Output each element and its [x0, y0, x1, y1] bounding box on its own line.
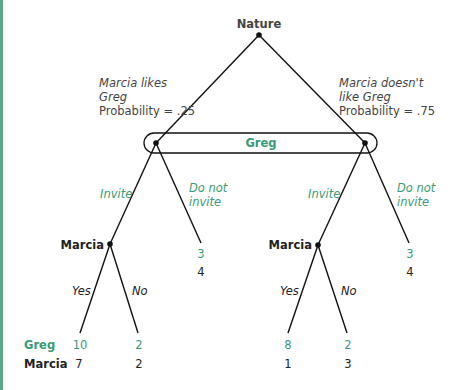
right-not-invite-label: Do not invite [397, 181, 435, 209]
payoff-marcia-dislikes-not-invite: 4 [406, 265, 413, 279]
payoff-greg-dislikes-yes: 8 [284, 338, 291, 352]
right-no-label: No [341, 284, 357, 298]
payoff-marcia-likes-not-invite: 4 [197, 265, 204, 279]
marcia-node-right-label: Marcia [269, 238, 312, 252]
greg-node-right [362, 140, 368, 146]
payoff-marcia-dislikes-yes: 1 [284, 357, 291, 371]
dislikes-line1: Marcia doesn't [339, 76, 435, 90]
right-yes-label: Yes [280, 284, 299, 298]
dislikes-probability: Probability = .75 [339, 104, 435, 118]
dislikes-line2: like Greg [339, 90, 435, 104]
likes-line2: Greg [99, 90, 195, 104]
row-label-greg: Greg [24, 338, 55, 352]
payoff-marcia-dislikes-no: 3 [344, 357, 351, 371]
nature-node [256, 32, 262, 38]
payoff-marcia-likes-yes: 7 [75, 357, 82, 371]
marcia-node-left [107, 241, 113, 247]
likes-probability: Probability = .25 [99, 104, 195, 118]
likes-line1: Marcia likes [99, 76, 195, 90]
dislikes-branch-label: Marcia doesn't like Greg Probability = .… [339, 76, 435, 118]
info-set-label: Greg [245, 136, 276, 150]
likes-branch-label: Marcia likes Greg Probability = .25 [99, 76, 195, 118]
right-invite-label: Invite [308, 187, 340, 201]
left-invite-label: Invite [100, 187, 132, 201]
left-no-label: No [132, 284, 148, 298]
payoff-greg-likes-no: 2 [135, 338, 142, 352]
payoff-greg-dislikes-not-invite: 3 [406, 247, 413, 261]
greg-node-left [153, 140, 159, 146]
marcia-node-right [315, 242, 321, 248]
left-not-invite-line1: Do not [189, 181, 227, 195]
right-not-invite-line1: Do not [397, 181, 435, 195]
row-label-marcia: Marcia [24, 357, 67, 371]
left-not-invite-line2: invite [189, 195, 227, 209]
marcia-node-left-label: Marcia [61, 238, 104, 252]
right-not-invite-line2: invite [397, 195, 435, 209]
left-yes-label: Yes [72, 284, 91, 298]
payoff-greg-dislikes-no: 2 [344, 338, 351, 352]
left-not-invite-label: Do not invite [189, 181, 227, 209]
game-tree-lines [0, 0, 455, 390]
payoff-greg-likes-not-invite: 3 [197, 247, 204, 261]
payoff-marcia-likes-no: 2 [135, 357, 142, 371]
nature-label: Nature [237, 17, 282, 31]
payoff-greg-likes-yes: 10 [73, 338, 88, 352]
